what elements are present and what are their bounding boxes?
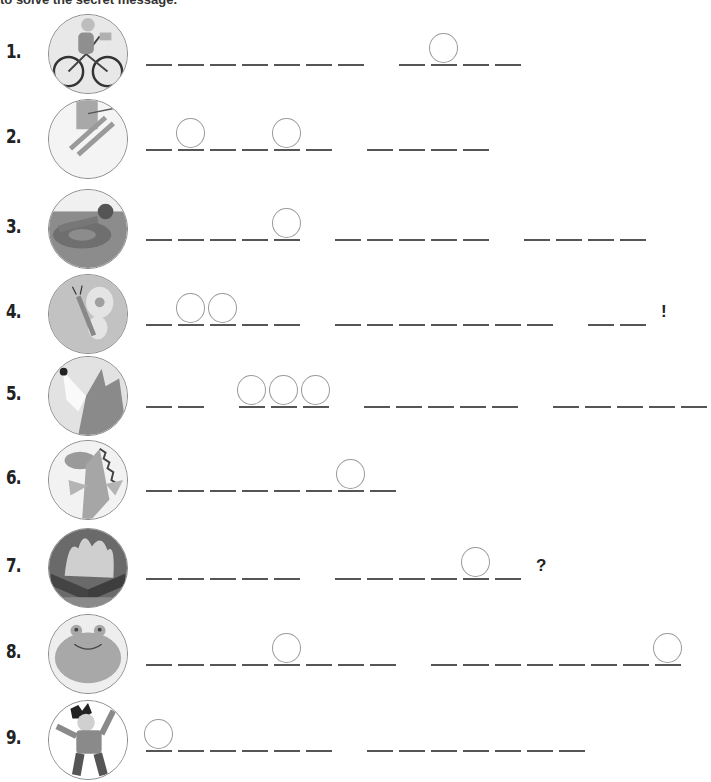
circled-letter-blank[interactable] (274, 205, 300, 241)
letter-blank[interactable] (367, 544, 393, 580)
letter-blank[interactable] (495, 30, 521, 66)
letter-blank[interactable] (274, 716, 300, 752)
letter-blank[interactable] (431, 115, 457, 151)
letter-blank[interactable] (428, 372, 454, 408)
letter-blank[interactable] (335, 205, 361, 241)
letter-blank[interactable] (370, 456, 396, 492)
letter-blank[interactable] (623, 630, 649, 666)
letter-blank[interactable] (146, 630, 172, 666)
letter-blank[interactable] (178, 630, 204, 666)
circled-letter-blank[interactable] (178, 290, 204, 326)
letter-blank[interactable] (559, 716, 585, 752)
letter-blank[interactable] (178, 456, 204, 492)
letter-blank[interactable] (210, 30, 236, 66)
letter-blank[interactable] (399, 290, 425, 326)
letter-blank[interactable] (463, 30, 489, 66)
letter-blank[interactable] (146, 290, 172, 326)
letter-blank[interactable] (146, 115, 172, 151)
circled-letter-blank[interactable] (303, 372, 329, 408)
letter-blank[interactable] (527, 716, 553, 752)
letter-blank[interactable] (274, 544, 300, 580)
letter-blank[interactable] (274, 290, 300, 326)
letter-blank[interactable] (210, 115, 236, 151)
letter-blank[interactable] (335, 544, 361, 580)
letter-blank[interactable] (492, 372, 518, 408)
letter-blank[interactable] (367, 205, 393, 241)
letter-blank[interactable] (463, 716, 489, 752)
letter-blank[interactable] (399, 115, 425, 151)
letter-blank[interactable] (463, 630, 489, 666)
letter-blank[interactable] (146, 544, 172, 580)
letter-blank[interactable] (242, 30, 268, 66)
letter-blank[interactable] (399, 30, 425, 66)
letter-blank[interactable] (620, 290, 646, 326)
letter-blank[interactable] (178, 372, 204, 408)
letter-blank[interactable] (242, 115, 268, 151)
letter-blank[interactable] (463, 115, 489, 151)
letter-blank[interactable] (146, 372, 172, 408)
letter-blank[interactable] (367, 716, 393, 752)
letter-blank[interactable] (146, 30, 172, 66)
letter-blank[interactable] (306, 30, 332, 66)
letter-blank[interactable] (146, 205, 172, 241)
circled-letter-blank[interactable] (655, 630, 681, 666)
letter-blank[interactable] (210, 544, 236, 580)
letter-blank[interactable] (649, 372, 675, 408)
letter-blank[interactable] (367, 115, 393, 151)
letter-blank[interactable] (463, 205, 489, 241)
letter-blank[interactable] (178, 205, 204, 241)
circled-letter-blank[interactable] (431, 30, 457, 66)
letter-blank[interactable] (306, 115, 332, 151)
letter-blank[interactable] (460, 372, 486, 408)
letter-blank[interactable] (399, 205, 425, 241)
circled-letter-blank[interactable] (210, 290, 236, 326)
letter-blank[interactable] (527, 630, 553, 666)
letter-blank[interactable] (431, 716, 457, 752)
letter-blank[interactable] (367, 290, 393, 326)
letter-blank[interactable] (617, 372, 643, 408)
letter-blank[interactable] (178, 30, 204, 66)
circled-letter-blank[interactable] (178, 115, 204, 151)
letter-blank[interactable] (396, 372, 422, 408)
circled-letter-blank[interactable] (146, 716, 172, 752)
letter-blank[interactable] (495, 630, 521, 666)
letter-blank[interactable] (553, 372, 579, 408)
letter-blank[interactable] (524, 205, 550, 241)
letter-blank[interactable] (306, 716, 332, 752)
letter-blank[interactable] (463, 290, 489, 326)
letter-blank[interactable] (399, 716, 425, 752)
letter-blank[interactable] (210, 456, 236, 492)
letter-blank[interactable] (588, 205, 614, 241)
letter-blank[interactable] (431, 205, 457, 241)
letter-blank[interactable] (620, 205, 646, 241)
circled-letter-blank[interactable] (271, 372, 297, 408)
letter-blank[interactable] (370, 630, 396, 666)
letter-blank[interactable] (495, 544, 521, 580)
letter-blank[interactable] (242, 716, 268, 752)
letter-blank[interactable] (338, 30, 364, 66)
letter-blank[interactable] (364, 372, 390, 408)
letter-blank[interactable] (585, 372, 611, 408)
letter-blank[interactable] (556, 205, 582, 241)
circled-letter-blank[interactable] (274, 630, 300, 666)
letter-blank[interactable] (242, 630, 268, 666)
letter-blank[interactable] (431, 630, 457, 666)
letter-blank[interactable] (335, 290, 361, 326)
circled-letter-blank[interactable] (463, 544, 489, 580)
letter-blank[interactable] (588, 290, 614, 326)
letter-blank[interactable] (178, 544, 204, 580)
circled-letter-blank[interactable] (239, 372, 265, 408)
letter-blank[interactable] (431, 544, 457, 580)
letter-blank[interactable] (399, 544, 425, 580)
letter-blank[interactable] (210, 630, 236, 666)
letter-blank[interactable] (146, 456, 172, 492)
circled-letter-blank[interactable] (338, 456, 364, 492)
letter-blank[interactable] (495, 716, 521, 752)
letter-blank[interactable] (210, 716, 236, 752)
circled-letter-blank[interactable] (274, 115, 300, 151)
letter-blank[interactable] (242, 290, 268, 326)
letter-blank[interactable] (306, 456, 332, 492)
letter-blank[interactable] (178, 716, 204, 752)
letter-blank[interactable] (242, 456, 268, 492)
letter-blank[interactable] (274, 30, 300, 66)
